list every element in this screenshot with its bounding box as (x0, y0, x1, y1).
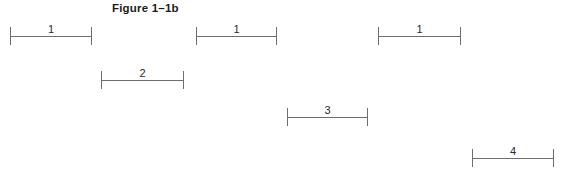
interval-segment: 1 (196, 27, 277, 45)
interval-segment: 2 (101, 71, 184, 89)
segment-length-label: 4 (472, 146, 554, 157)
segment-line (287, 117, 368, 118)
interval-segment: 1 (10, 27, 92, 45)
segment-length-label: 2 (101, 68, 184, 79)
segment-length-label: 3 (287, 105, 368, 116)
segment-line (472, 158, 554, 159)
segment-line (378, 36, 461, 37)
figure-title: Figure 1–1b (112, 1, 179, 15)
segment-length-label: 1 (10, 24, 92, 35)
interval-segment: 4 (472, 149, 554, 167)
segment-length-label: 1 (378, 24, 461, 35)
segment-length-label: 1 (196, 24, 277, 35)
interval-segment: 1 (378, 27, 461, 45)
segment-line (10, 36, 92, 37)
segment-line (101, 80, 184, 81)
segment-line (196, 36, 277, 37)
interval-segment: 3 (287, 108, 368, 126)
figure-canvas: Figure 1–1b 111234 (0, 0, 566, 186)
